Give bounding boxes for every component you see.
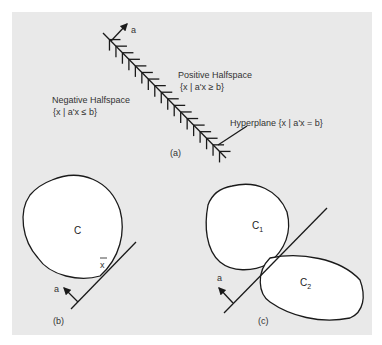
- point-label-xbar: x: [100, 260, 105, 270]
- normal-label-c: a: [217, 273, 222, 283]
- set-label-c: C: [74, 225, 81, 236]
- hyperplane-leader-line: [218, 126, 247, 145]
- panel-b: C a x (b): [23, 175, 136, 326]
- negative-halfspace-title: Negative Halfspace: [52, 95, 130, 105]
- normal-vector-b: [64, 288, 78, 302]
- caption-c: (c): [258, 316, 269, 326]
- normal-label-b: a: [54, 284, 59, 294]
- caption-a: (a): [170, 148, 181, 158]
- normal-vector-c: [219, 288, 233, 303]
- panel-c: C1 C2 a (c): [206, 184, 363, 326]
- convex-set-c2: [260, 256, 363, 320]
- panel-a: a Positive Halfspace {x | a'x ≥ b} Negat…: [52, 24, 323, 162]
- positive-halfspace-title: Positive Halfspace: [178, 70, 252, 80]
- caption-b: (b): [53, 316, 64, 326]
- normal-vector-arrow: [111, 24, 127, 41]
- convex-sets-figure: a Positive Halfspace {x | a'x ≥ b} Negat…: [0, 0, 382, 345]
- normal-label-a: a: [131, 25, 136, 35]
- hyperplane-label: Hyperplane {x | a'x = b}: [230, 118, 323, 128]
- negative-halfspace-set: {x | a'x ≤ b}: [53, 107, 97, 117]
- convex-set-c: [23, 175, 122, 278]
- positive-halfspace-set: {x | a'x ≥ b}: [180, 82, 224, 92]
